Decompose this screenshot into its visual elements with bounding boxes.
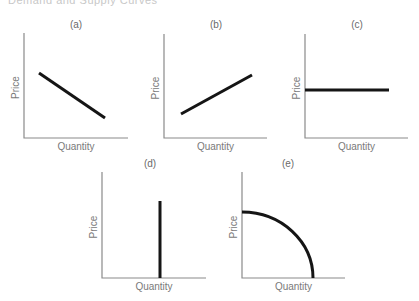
y-axis-label: Price — [10, 76, 21, 99]
y-axis-label: Price — [150, 76, 161, 99]
panel-label: (e) — [282, 158, 294, 169]
axes — [24, 33, 128, 138]
axes — [242, 172, 345, 278]
demand-curve — [39, 73, 105, 118]
panel-b: (b)QuantityPrice — [150, 19, 267, 152]
panel-c: (c)QuantityPrice — [291, 19, 408, 152]
demand-curve — [242, 212, 313, 278]
panel-label: (d) — [144, 158, 156, 169]
y-axis-label: Price — [291, 76, 302, 99]
x-axis-label: Quantity — [275, 281, 312, 292]
demand-curve — [181, 75, 252, 114]
panel-a: (a)QuantityPrice — [10, 19, 128, 152]
panel-d: (d)QuantityPrice — [88, 158, 206, 292]
panel-e: (e)QuantityPrice — [228, 158, 345, 292]
axes — [305, 34, 408, 138]
panel-label: (b) — [210, 19, 222, 30]
demand-curves-diagram: (a)QuantityPrice(b)QuantityPrice(c)Quant… — [0, 0, 419, 301]
x-axis-label: Quantity — [135, 281, 172, 292]
x-axis-label: Quantity — [197, 141, 234, 152]
axes — [102, 172, 206, 278]
panel-label: (a) — [70, 19, 82, 30]
x-axis-label: Quantity — [57, 141, 94, 152]
y-axis-label: Price — [88, 215, 99, 238]
x-axis-label: Quantity — [338, 141, 375, 152]
y-axis-label: Price — [228, 215, 239, 238]
panel-label: (c) — [351, 19, 363, 30]
axes — [164, 34, 267, 138]
